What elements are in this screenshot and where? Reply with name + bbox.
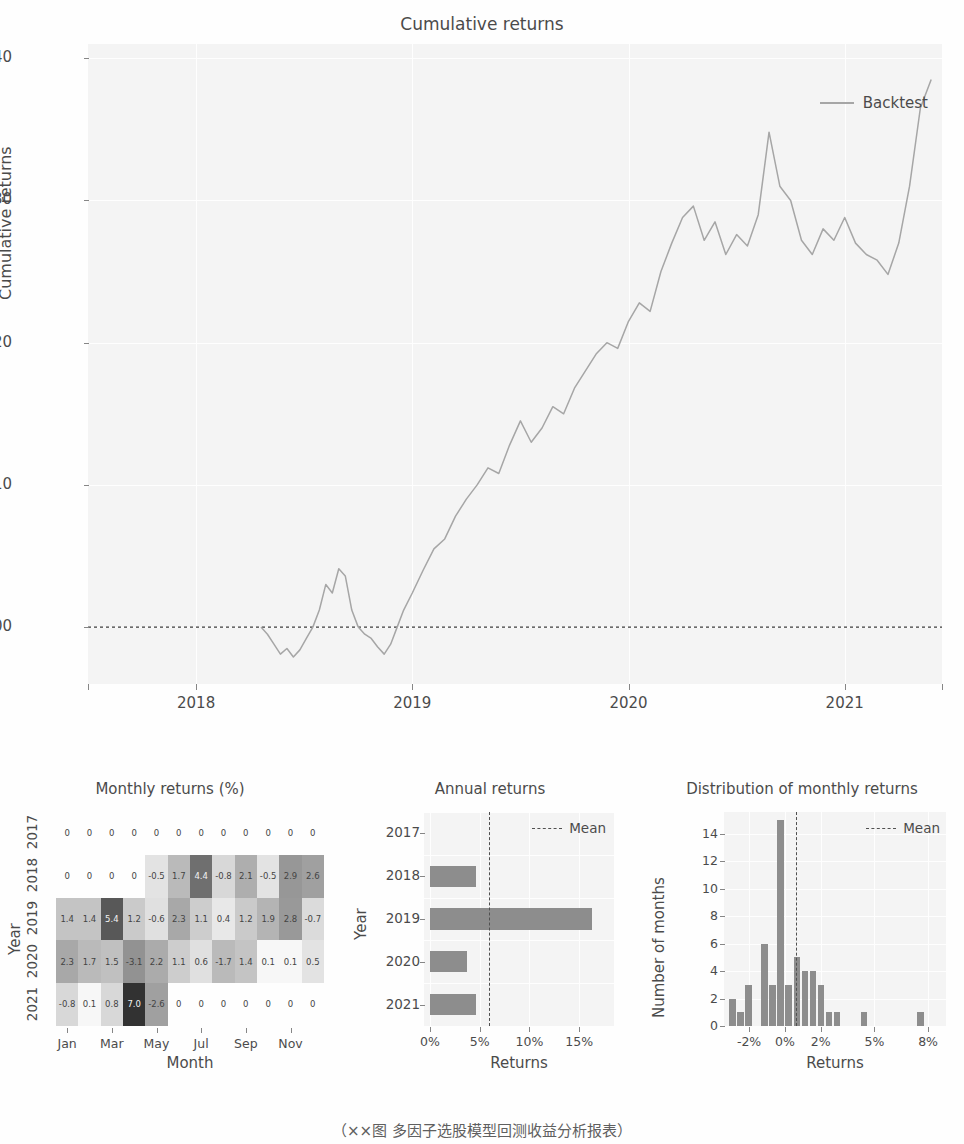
heatmap-cell: -0.5 (145, 855, 167, 898)
heatmap-cell: 1.4 (56, 898, 78, 941)
x-tick-label: 2018 (151, 694, 241, 712)
distribution-x-tick-label: 8% (904, 1034, 952, 1049)
heatmap-cell: 0 (279, 983, 301, 1026)
annual-x-tick-mark (480, 1027, 481, 1032)
cumulative-returns-legend: Backtest (820, 94, 928, 112)
heatmap-x-tick-mark (112, 1028, 113, 1033)
histogram-bar (826, 1012, 832, 1026)
heatmap-cell: 5.4 (101, 898, 123, 941)
distribution-xlabel: Returns (724, 1054, 946, 1072)
heatmap-cell: 0 (78, 812, 100, 855)
distribution-y-tick-label: 2 (688, 991, 718, 1006)
distribution-y-tick-mark (720, 834, 725, 835)
gridline-horizontal (724, 999, 946, 1000)
annual-x-tick-mark (529, 1027, 530, 1032)
annual-x-tick-mark (430, 1027, 431, 1032)
heatmap-x-tick-mark (246, 1028, 247, 1033)
legend-label-backtest: Backtest (863, 94, 928, 112)
annual-returns-xlabel: Returns (424, 1054, 614, 1072)
heatmap-x-tick-mark (201, 1028, 202, 1033)
heatmap-month-label: Sep (230, 1036, 262, 1051)
distribution-mean-line (796, 812, 797, 1026)
gridline-horizontal (424, 940, 614, 941)
heatmap-cell: -2.6 (145, 983, 167, 1026)
heatmap-cell: 0.6 (190, 940, 212, 983)
histogram-bar (861, 1012, 867, 1026)
heatmap-cell: 2.1 (235, 855, 257, 898)
histogram-bar (917, 1012, 923, 1026)
heatmap-cell: 1.9 (257, 898, 279, 941)
annual-return-bar (430, 866, 476, 887)
gridline-horizontal (724, 916, 946, 917)
heatmap-cell: -0.7 (302, 898, 324, 941)
distribution-x-tick-mark (928, 1027, 929, 1032)
gridline-vertical (928, 812, 929, 1026)
heatmap-cell: 4.4 (190, 855, 212, 898)
histogram-bar (761, 944, 767, 1026)
heatmap-cell: -0.5 (257, 855, 279, 898)
annual-return-bar (430, 951, 467, 972)
distribution-y-tick-label: 8 (688, 908, 718, 923)
heatmap-cell: 1.1 (190, 898, 212, 941)
heatmap-cell: 0 (302, 812, 324, 855)
legend-mean-swatch (532, 828, 562, 829)
histogram-bar (810, 971, 816, 1026)
distribution-histogram-area: Mean (724, 812, 946, 1026)
heatmap-month-label: Nov (275, 1036, 307, 1051)
heatmap-cell: 0 (257, 812, 279, 855)
heatmap-cell: 0 (190, 812, 212, 855)
heatmap-cell: 2.6 (302, 855, 324, 898)
gridline-horizontal (424, 1026, 614, 1027)
x-tick-label: 2021 (800, 694, 890, 712)
heatmap-cell: 0.8 (101, 983, 123, 1026)
annual-x-tick-label: 10% (505, 1034, 553, 1049)
monthly-returns-year-axis: 20172018201920202021 (10, 812, 54, 1026)
cumulative-returns-title: Cumulative returns (0, 14, 964, 34)
heatmap-cell: 0 (78, 855, 100, 898)
heatmap-cell: 0.4 (212, 898, 234, 941)
heatmap-cell: 7.0 (123, 983, 145, 1026)
heatmap-month-label: May (141, 1036, 173, 1051)
heatmap-cell: 2.9 (279, 855, 301, 898)
histogram-bar (802, 971, 808, 1026)
distribution-y-tick-label: 10 (688, 881, 718, 896)
distribution-x-tick-mark (785, 1027, 786, 1032)
heatmap-cell: 0.1 (279, 940, 301, 983)
heatmap-cell: 0 (123, 812, 145, 855)
distribution-x-tick-mark (821, 1027, 822, 1032)
histogram-bar (818, 985, 824, 1026)
distribution-y-tick-mark (720, 971, 725, 972)
heatmap-cell: -3.1 (123, 940, 145, 983)
heatmap-cell: 0 (56, 855, 78, 898)
annual-x-tick-label: 15% (555, 1034, 603, 1049)
distribution-y-tick-mark (720, 861, 725, 862)
backtest-line (261, 80, 931, 657)
histogram-bar (737, 1012, 743, 1026)
annual-y-tick-mark (420, 919, 425, 920)
heatmap-cell: 0 (168, 983, 190, 1026)
distribution-x-tick-mark (874, 1027, 875, 1032)
annual-y-tick-mark (420, 962, 425, 963)
annual-returns-panel: Annual returns Year Mean 201720182019202… (340, 780, 640, 1144)
histogram-bar (785, 985, 791, 1026)
distribution-x-tick-mark (749, 1027, 750, 1032)
legend-mean-swatch (866, 828, 896, 829)
distribution-x-tick-label: 2% (797, 1034, 845, 1049)
cumulative-returns-line-svg (88, 44, 942, 684)
annual-returns-ylabel: Year (352, 908, 370, 940)
x-tick-mark (845, 684, 846, 690)
y-tick-mark (84, 485, 89, 486)
distribution-y-tick-mark (720, 889, 725, 890)
heatmap-cell: 0 (212, 983, 234, 1026)
annual-x-tick-mark (579, 1027, 580, 1032)
heatmap-cell: 1.4 (78, 898, 100, 941)
annual-returns-legend: Mean (532, 820, 606, 836)
annual-returns-mean-line (489, 812, 490, 1026)
y-tick-label: 1.00 (0, 617, 12, 635)
y-tick-label: 1.30 (0, 190, 12, 208)
heatmap-cell: 2.3 (168, 898, 190, 941)
distribution-y-tick-label: 12 (688, 853, 718, 868)
annual-return-bar (430, 908, 592, 929)
x-tick-mark (196, 684, 197, 690)
distribution-ylabel: Number of months (650, 877, 668, 1018)
